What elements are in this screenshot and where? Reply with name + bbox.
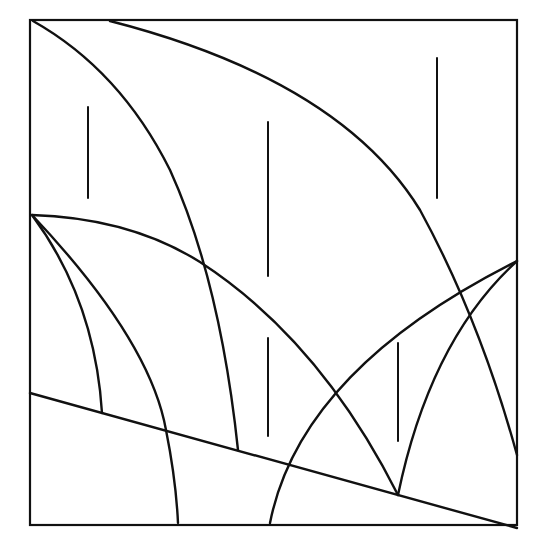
curve-d-boundary bbox=[32, 215, 102, 413]
curve-c-boundary bbox=[32, 215, 398, 495]
diagram-svg bbox=[0, 0, 536, 548]
double-arrows bbox=[88, 58, 437, 441]
curve-b-boundary bbox=[110, 21, 517, 455]
curve-a-boundary bbox=[33, 21, 238, 450]
diagram-frame bbox=[30, 20, 517, 525]
diagram-canvas bbox=[0, 0, 536, 548]
curve-e-boundary bbox=[32, 215, 178, 523]
boundary-curves bbox=[30, 21, 517, 528]
curve-h-boundary bbox=[398, 261, 517, 495]
